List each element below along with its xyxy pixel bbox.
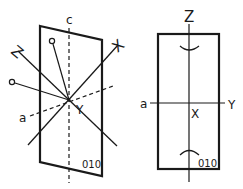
label-a-right: a bbox=[140, 97, 147, 111]
face-label-010: 010 bbox=[82, 159, 101, 170]
optic-axis-upper-marker-icon bbox=[49, 38, 54, 43]
label-z: Z bbox=[7, 42, 26, 62]
label-y-right: Y bbox=[227, 98, 236, 112]
face-label-010-right: 010 bbox=[198, 158, 217, 169]
label-a: a bbox=[19, 111, 26, 125]
center-point bbox=[67, 98, 70, 101]
left-view-labels: c Z X Y a 010 bbox=[7, 13, 127, 170]
optic-axis-left-marker-icon bbox=[9, 79, 14, 84]
label-c: c bbox=[66, 13, 73, 27]
label-y: Y bbox=[75, 103, 84, 117]
crystal-optics-diagram: c Z X Y a 010 Z a Y X 010 bbox=[0, 0, 243, 189]
label-z-right: Z bbox=[184, 8, 194, 26]
label-x-right: X bbox=[191, 107, 199, 121]
x-vibration-line bbox=[28, 45, 118, 145]
a-axis-dashed-line bbox=[30, 86, 113, 116]
right-view-labels: Z a Y X 010 bbox=[140, 8, 236, 169]
